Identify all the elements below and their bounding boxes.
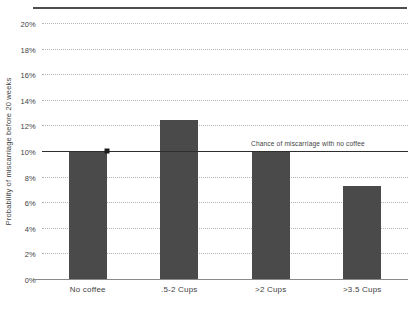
y-axis-tick-label: 14% <box>20 96 36 105</box>
reference-line-marker <box>104 149 109 154</box>
y-axis-tick-label: 6% <box>25 199 36 208</box>
bar <box>160 120 198 279</box>
plot-area: 0%2%4%6%8%10%12%14%16%18%20% Chance of m… <box>42 23 408 279</box>
reference-line-label: Chance of miscarriage with no coffee <box>251 140 365 147</box>
bar <box>252 151 290 279</box>
y-axis-tick-label: 2% <box>25 250 36 259</box>
x-axis-tick-label: >2 Cups <box>255 285 286 294</box>
x-axis-tick-label: >3.5 Cups <box>343 285 382 294</box>
y-axis-title-label: Probability of miscarriage before 20 wee… <box>4 77 13 225</box>
x-axis-tick-label: .5-2 Cups <box>161 285 197 294</box>
y-axis-tick-label: 16% <box>20 71 36 80</box>
y-axis-tick-label: 12% <box>20 122 36 131</box>
y-axis-tick-label: 10% <box>20 148 36 157</box>
top-border-rule <box>33 7 407 9</box>
y-axis-tick-label: 20% <box>20 20 36 29</box>
y-axis-tick-label: 4% <box>25 224 36 233</box>
reference-line <box>42 151 408 152</box>
bar <box>69 151 107 279</box>
y-axis-tick-label: 18% <box>20 45 36 54</box>
y-axis-tick-label: 8% <box>25 173 36 182</box>
y-axis-title: Probability of miscarriage before 20 wee… <box>2 23 15 279</box>
chart-figure: Probability of miscarriage before 20 wee… <box>0 0 411 313</box>
bar <box>343 186 381 279</box>
x-axis-line <box>33 279 408 280</box>
x-axis-tick-label: No coffee <box>70 285 106 294</box>
